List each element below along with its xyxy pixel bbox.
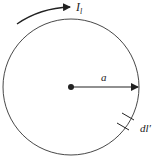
current-loop-diagram: Il a dl′ bbox=[0, 0, 159, 159]
current-direction-arrow bbox=[17, 7, 70, 24]
element-tick-lower bbox=[117, 123, 129, 130]
radius-label: a bbox=[101, 71, 107, 83]
current-label: Il bbox=[75, 0, 83, 16]
element-label: dl′ bbox=[140, 122, 152, 134]
